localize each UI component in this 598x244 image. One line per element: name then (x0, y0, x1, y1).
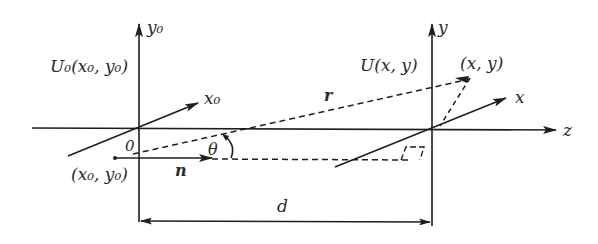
diffraction-geometry-diagram: y₀ U₀(x₀, y₀) x₀ 0 (x₀, y₀) n θ r y U(x,… (0, 0, 598, 244)
normal-extension (212, 159, 412, 160)
source-point-dot (113, 156, 117, 160)
angle-theta-label: θ (208, 140, 218, 159)
right-angle-mark (401, 147, 424, 160)
distance-d-arrow (141, 221, 430, 222)
observation-point-label: (x, y) (460, 53, 503, 73)
y-axis-label: y (437, 17, 448, 37)
origin-label: 0 (125, 137, 135, 155)
z-axis-label: z (562, 120, 573, 140)
x0-axis-label: x₀ (204, 88, 221, 108)
normal-label: n (175, 161, 187, 180)
r-vector-label: r (324, 86, 334, 105)
observation-field-label: U(x, y) (360, 55, 418, 75)
x-axis-label: x (515, 87, 525, 107)
distance-d-label: d (277, 196, 288, 216)
r-vector (133, 79, 470, 154)
source-point-label: (x₀, y₀) (71, 164, 128, 184)
y0-axis-label: y₀ (146, 17, 164, 37)
theta-arc (226, 137, 233, 158)
z-axis (32, 128, 556, 130)
x-axis (335, 98, 506, 167)
source-field-label: U₀(x₀, y₀) (50, 56, 128, 76)
